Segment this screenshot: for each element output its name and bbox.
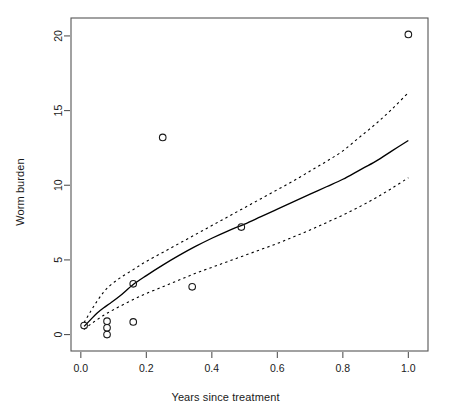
x-tick-label: 0.4 [205,362,220,374]
y-axis-label: Worm burden [14,132,26,252]
x-tick-label: 0.2 [139,362,154,374]
scatter-plot: 0.00.20.40.60.81.0 05101520 [0,0,451,418]
y-tick-label: 5 [52,257,64,263]
x-tick-label: 0.0 [74,362,89,374]
y-tick-label: 10 [52,179,64,191]
plot-background [0,0,451,418]
x-axis-label: Years since treatment [0,391,451,403]
x-tick-label: 0.6 [270,362,285,374]
y-tick-label: 15 [52,105,64,117]
chart-container: 0.00.20.40.60.81.0 05101520 Years since … [0,0,451,418]
y-tick-label: 20 [52,30,64,42]
x-tick-label: 0.8 [336,362,351,374]
x-tick-label: 1.0 [401,362,416,374]
y-tick-label: 0 [52,331,64,337]
